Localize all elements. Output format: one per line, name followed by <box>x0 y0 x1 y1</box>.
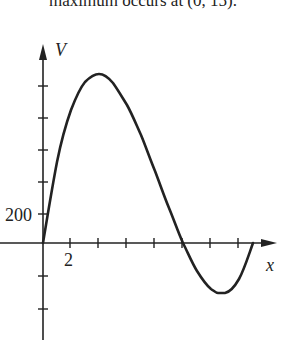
function-curve <box>43 74 253 293</box>
y-axis-label: V <box>55 40 68 60</box>
y-axis <box>38 44 48 340</box>
x-axis-label: x <box>265 255 274 275</box>
y-axis-arrow-icon <box>39 44 47 60</box>
function-graph: V x 200 2 <box>0 0 286 349</box>
x-tick-label-2: 2 <box>64 250 73 270</box>
x-axis-arrow-icon <box>261 239 277 247</box>
y-tick-label-200: 200 <box>5 205 32 225</box>
x-axis <box>0 238 277 248</box>
